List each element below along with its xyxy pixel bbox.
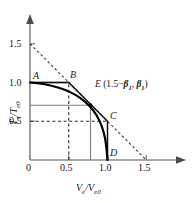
x-tick-label-1-5: 1.5 bbox=[138, 162, 151, 173]
y-axis-title-den-sub: e0 bbox=[14, 101, 22, 108]
y-axis-title: Te/Te0 bbox=[8, 101, 22, 125]
y-axis-arrowhead bbox=[26, 14, 34, 24]
y-axis-title-num-sub: e bbox=[14, 116, 22, 119]
point-e-marker bbox=[89, 103, 93, 107]
point-label-a: A bbox=[33, 70, 39, 81]
chart-figure: 0 0.5 1.0 1.5 0.5 1.0 1.5 A B C D E (1.5… bbox=[0, 0, 195, 203]
point-label-d: D bbox=[110, 147, 117, 158]
x-tick-label-0: 0 bbox=[26, 162, 31, 173]
point-e-annotation-close: ) bbox=[145, 79, 148, 89]
point-label-b: B bbox=[70, 69, 76, 80]
point-e-annotation: E (1.5−β1, β1) bbox=[95, 79, 148, 91]
x-axis-arrowhead bbox=[176, 156, 186, 164]
y-axis-title-den: T bbox=[8, 108, 19, 114]
x-axis-title-den-sub: e0 bbox=[94, 188, 101, 196]
y-tick-label-1-5: 1.5 bbox=[9, 38, 22, 49]
x-tick-label-1-0: 1.0 bbox=[99, 162, 112, 173]
y-tick-label-1-0: 1.0 bbox=[9, 77, 22, 88]
point-e-annotation-open: (1.5− bbox=[103, 79, 123, 89]
y-axis-title-num: T bbox=[8, 119, 19, 125]
x-tick-label-0-5: 0.5 bbox=[60, 162, 73, 173]
x-axis-title: Ve/Ve0 bbox=[76, 182, 101, 196]
point-label-c: C bbox=[110, 110, 117, 121]
